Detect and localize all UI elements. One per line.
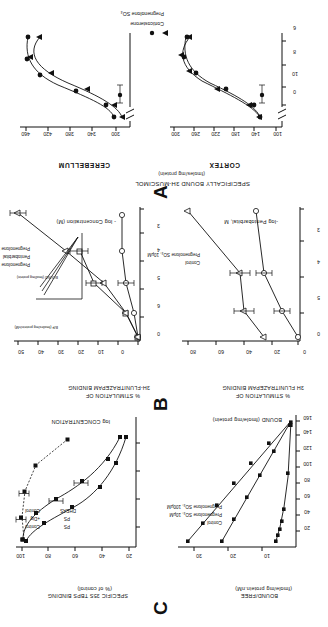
- panel-a-top-ytick-300: 300: [111, 131, 120, 137]
- panel-a-bot-xtick-8: 8: [293, 49, 296, 55]
- panel-a-cerebellum-heading: CEREBELLUM: [58, 162, 110, 169]
- panel-b-inset-xlabel: BOUND (fmol/mg protein): [17, 275, 58, 279]
- panel-b-inset-ylabel: B/F (fmoles/mg protein/nM): [14, 325, 58, 329]
- panel-c-top-ytick-100: 100: [16, 553, 25, 559]
- panel-b-top-ylabel-2: 3H-FLUNITRAZEPAM BINDING: [68, 385, 150, 391]
- panel-c-bottom-legend-2: Pregnenolone SO₄, 100μM: [167, 504, 222, 509]
- panel-b-bottom-chart: [176, 198, 324, 383]
- panel-b-legend-item-0: Pregnenolone SO₄: [0, 262, 30, 267]
- panel-a-top-ytick-340: 340: [87, 131, 96, 137]
- panel-b-top-xtick-2: 5: [157, 275, 160, 281]
- panel-b-top-xlabel: - log Concentration (M): [56, 219, 116, 225]
- panel-a-legend-corticosterone: Corticosterone: [130, 21, 164, 27]
- panel-c-top-ytick-60: 60: [72, 553, 78, 559]
- panel-c-bottom-xtick-4: 100: [303, 461, 312, 467]
- panel-c-bottom-ylabel-1: BOUND/FREE: [241, 593, 278, 599]
- panel-c-bottom-xtick-6: 140: [303, 429, 312, 435]
- panel-c-bottom-xtick-0: 20: [304, 525, 310, 531]
- panel-c-bottom-ytick-30: 30: [196, 553, 202, 559]
- panel-a-ylabel-1: SPECIFICALLY BOUND 3H-MUSCIMOL: [135, 181, 250, 187]
- panel-a-legend-markers: [148, 17, 168, 37]
- panel-a-cortex-heading: CORTEX: [209, 162, 240, 169]
- panel-b-bottom-ytick-2: 40: [246, 349, 252, 355]
- panel-b-top-chart: [8, 198, 160, 383]
- panel-a-bot-xtick-6: 6: [293, 25, 296, 31]
- panel-a-top-ytick-460: 460: [21, 131, 30, 137]
- panel-b-bottom-xtick-1: 5: [317, 295, 320, 301]
- panel-b-top-xtick-4: 3: [157, 223, 160, 229]
- panel-b-bottom-xlabel: -log Pentobarbital, M: [224, 219, 278, 225]
- panel-c-bottom-chart: [172, 397, 322, 587]
- panel-a: A SPECIFICALLY BOUND 3H-MUSCIMOL (fmoles…: [0, 7, 328, 207]
- panel-b-top-ytick-4: 10: [98, 349, 104, 355]
- panel-b-top-ytick-2: 30: [58, 349, 64, 355]
- panel-c-bottom-legend-0: Control: [207, 520, 222, 525]
- panel-b-label: B: [150, 397, 172, 411]
- figure-plate: C: [0, 0, 328, 627]
- panel-a-legend-pregnenolone: Pregnenolone SO₄: [121, 11, 164, 17]
- panel-c-bottom-ytick-20: 20: [230, 553, 236, 559]
- panel-b-top-ytick-5: 0: [121, 349, 124, 355]
- panel-b-bottom-xtick-3: 3: [317, 227, 320, 233]
- panel-b-bottom-xtick-2: 4: [317, 259, 320, 265]
- panel-b-top-xtick-1: 6: [157, 303, 160, 309]
- panel-a-cerebellum-chart: [10, 3, 150, 163]
- panel-c-top-ytick-20: 20: [126, 553, 132, 559]
- panel-c-legend-right-1: PS: [64, 516, 70, 521]
- panel-c-legend-item-0: Control: [25, 524, 40, 529]
- panel-b-top-ytick-1: 40: [38, 349, 44, 355]
- panel-b-bottom-ylabel-2: 3H FLUNITRAZEPAM BINDING: [222, 385, 304, 391]
- panel-a-top-ytick-420: 420: [43, 131, 52, 137]
- panel-b-bottom-ytick-3: 20: [274, 349, 280, 355]
- panel-b-top-xtick-0: 0: [157, 331, 160, 337]
- panel-a-ylabel-2: (fmoles/mg protein): [158, 171, 205, 177]
- panel-c-bottom-legend-1: Pregnenolone SO₄, 10μM: [169, 512, 222, 517]
- panel-a-bot-xtick-10: 10: [292, 71, 298, 77]
- panel-c-bottom-xtick-2: 60: [304, 493, 310, 499]
- panel-c-bottom-ylabel-2: (fmole/mg protein.nM): [235, 586, 292, 592]
- panel-b-bottom-xtick-0: 0: [317, 331, 320, 337]
- panel-a-bot-ytick-260: 260: [191, 131, 200, 137]
- panel-a-bot-ytick-140: 140: [251, 131, 260, 137]
- panel-c-bottom-ytick-10: 10: [264, 553, 270, 559]
- panel-c-top-ytick-80: 80: [45, 553, 51, 559]
- panel-a-bot-ytick-220: 220: [211, 131, 220, 137]
- panel-c: C: [0, 421, 328, 621]
- panel-c-bottom-xtick-3: 80: [304, 477, 310, 483]
- panel-a-bot-ytick-300: 300: [171, 131, 180, 137]
- panel-b-legend-item-1: Pentobarbital: [3, 254, 30, 259]
- panel-c-bottom-xtick-7: 160: [303, 415, 312, 421]
- panel-c-bottom-xtick-1: 40: [304, 509, 310, 515]
- panel-b-bottom-ytick-1: 60: [218, 349, 224, 355]
- panel-a-cortex-chart: [164, 3, 314, 163]
- panel-b-top-ytick-0: 50: [18, 349, 24, 355]
- panel-b-bottom-ylabel-1: % STIMULATION OF: [236, 393, 290, 399]
- panel-a-bot-ytick-180: 180: [231, 131, 240, 137]
- panel-c-top-ytick-40: 40: [99, 553, 105, 559]
- panel-c-top-ylabel-2: (% of control): [77, 586, 112, 592]
- panel-c-bottom-xlabel: BOUND (fmole/mg protein): [212, 417, 282, 423]
- panel-b: B: [0, 220, 328, 415]
- panel-b-bottom-ytick-0: 80: [190, 349, 196, 355]
- panel-b-top-ylabel-1: % STIMULATION OF: [86, 393, 140, 399]
- panel-c-top-xlabel: log CONCENTRATION: [51, 419, 110, 425]
- panel-b-legend-item-2: Pregnenolone SO₄ + Pentobarb.: [0, 246, 30, 251]
- panel-b-top-ytick-3: 20: [78, 349, 84, 355]
- panel-b-bottom-legend-1: Pregnenolone SO₄, 10μM: [147, 252, 200, 257]
- panel-b-bottom-ytick-4: 0: [303, 349, 306, 355]
- panel-b-bottom-legend-0: Control: [185, 260, 200, 265]
- panel-a-bot-ytick-100: 100: [273, 131, 282, 137]
- panel-c-legend-item-2: Control: [25, 508, 40, 513]
- panel-a-bot-xtick-0: 0: [293, 89, 296, 95]
- panel-c-bottom-xtick-5: 120: [303, 445, 312, 451]
- panel-c-label: C: [150, 601, 172, 615]
- panel-c-legend-item-1: +Dig: [30, 516, 40, 521]
- panel-c-legend-right-0: PS: [64, 524, 70, 529]
- panel-c-top-ylabel-1: SPECIFIC 35S TBPS BINDING: [48, 593, 128, 599]
- panel-c-top-chart: [8, 397, 158, 587]
- panel-a-top-ytick-380: 380: [65, 131, 74, 137]
- panel-c-legend-right-2: DHEAS: [60, 508, 76, 513]
- panel-a-label: A: [150, 185, 172, 199]
